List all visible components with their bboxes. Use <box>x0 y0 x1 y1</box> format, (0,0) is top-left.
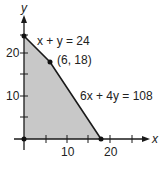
y-axis-label: y <box>20 1 28 15</box>
point-18-0 <box>99 137 104 142</box>
tick-y-10: 10 <box>6 89 20 103</box>
point-6-18 <box>48 60 53 65</box>
y-axis-arrow-icon <box>21 15 27 23</box>
tick-x-20: 20 <box>104 145 118 159</box>
point-label: (6, 18) <box>57 53 92 67</box>
tick-y-20: 20 <box>6 46 20 60</box>
point-0-24 <box>22 34 27 39</box>
x-axis-arrow-icon <box>142 136 150 142</box>
line1-label: x + y = 24 <box>37 34 90 48</box>
x-axis-label: x <box>151 132 159 146</box>
feasible-region-chart: y x 20 10 10 20 x + y = 24 (6, 18) 6x + … <box>0 0 166 170</box>
tick-x-10: 10 <box>61 145 75 159</box>
line2-label: 6x + 4y = 108 <box>80 89 153 103</box>
feasible-region <box>24 36 101 139</box>
chart-svg: y x 20 10 10 20 x + y = 24 (6, 18) 6x + … <box>0 0 166 170</box>
point-origin <box>22 137 27 142</box>
